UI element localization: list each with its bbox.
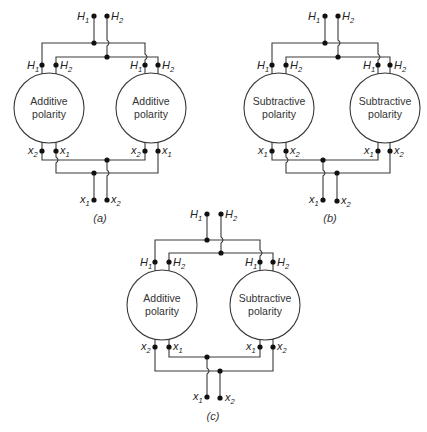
panel-c: Additive polarity Subtractive polarity H… — [127, 208, 300, 422]
svg-text:x1: x1 — [172, 340, 183, 355]
terminal-label-x1: x1 — [59, 144, 70, 159]
transformer-label: polarity — [134, 108, 169, 120]
svg-text:H2: H2 — [173, 256, 186, 271]
transformer-label: Subtractive — [239, 292, 292, 304]
transformer-label: polarity — [145, 305, 180, 317]
parallel-transformer-diagram: Additive polarity Additive polarity H1 H… — [0, 0, 427, 432]
svg-text:x2: x2 — [340, 194, 352, 209]
svg-text:H1: H1 — [190, 208, 202, 223]
terminal-label-h1: H1 — [130, 59, 142, 74]
terminal-dot — [142, 148, 147, 153]
transformer-label: polarity — [32, 108, 67, 120]
junction-dot — [91, 170, 96, 175]
terminal-dot — [155, 62, 160, 67]
panel-b: Subtractive polarity Subtractive polarit… — [244, 10, 420, 224]
svg-text:x2: x2 — [224, 391, 236, 406]
svg-text:H2: H2 — [290, 59, 303, 74]
svg-text:H2: H2 — [225, 208, 238, 223]
load-x2-wire — [107, 160, 109, 200]
terminal-label-x2: x2 — [27, 144, 39, 159]
terminal-dot — [142, 62, 147, 67]
terminal-label-h2: H2 — [111, 10, 124, 25]
svg-text:x1: x1 — [363, 144, 374, 159]
transformer-label: Additive — [30, 95, 68, 107]
svg-text:x1: x1 — [257, 144, 268, 159]
svg-text:H2: H2 — [277, 256, 290, 271]
svg-text:x1: x1 — [308, 193, 319, 208]
terminal-dot — [104, 197, 109, 202]
terminal-label-x2: x2 — [110, 193, 122, 208]
supply-h2-wire — [107, 16, 109, 57]
terminal-dot — [53, 62, 58, 67]
transformer-label: Subtractive — [253, 95, 306, 107]
panel-caption: (c) — [207, 410, 220, 422]
terminal-label-h2: H2 — [60, 59, 73, 74]
terminal-label-h1: H1 — [27, 59, 39, 74]
transformer-label: polarity — [368, 108, 403, 120]
svg-text:x1: x1 — [192, 390, 203, 405]
svg-text:x2: x2 — [276, 340, 288, 355]
terminal-dot — [39, 148, 44, 153]
panel-caption: (b) — [323, 212, 337, 224]
terminal-dot — [104, 13, 109, 18]
svg-text:H1: H1 — [140, 256, 152, 271]
transformer-label: Subtractive — [359, 95, 412, 107]
junction-dot — [104, 157, 109, 162]
junction-dot — [104, 54, 109, 59]
panel-caption: (a) — [93, 212, 107, 224]
transformer-label: polarity — [262, 108, 297, 120]
terminal-dot — [91, 13, 96, 18]
svg-text:x1: x1 — [245, 340, 256, 355]
x2-bus — [286, 151, 390, 173]
svg-text:H1: H1 — [245, 256, 257, 271]
terminal-label-x1: x1 — [161, 144, 172, 159]
transformer-label: Additive — [132, 95, 170, 107]
svg-text:H2: H2 — [394, 59, 407, 74]
terminal-dot — [39, 62, 44, 67]
transformer-label: polarity — [248, 305, 283, 317]
svg-text:x2: x2 — [289, 144, 301, 159]
svg-text:H2: H2 — [342, 10, 355, 25]
svg-text:H1: H1 — [308, 10, 320, 25]
svg-text:H1: H1 — [363, 59, 375, 74]
panel-a: Additive polarity Additive polarity H1 H… — [14, 10, 186, 224]
svg-text:x2: x2 — [393, 144, 405, 159]
terminal-label-h1: H1 — [77, 10, 89, 25]
terminal-label-h2: H2 — [162, 59, 175, 74]
terminal-label-x2: x2 — [130, 144, 142, 159]
terminal-dot — [91, 197, 96, 202]
svg-text:H1: H1 — [257, 59, 269, 74]
junction-dot — [91, 40, 96, 45]
terminal-dot — [155, 148, 160, 153]
terminal-dot — [53, 148, 58, 153]
svg-text:x2: x2 — [140, 340, 152, 355]
terminal-label-x1: x1 — [79, 193, 90, 208]
transformer-label: Additive — [143, 292, 181, 304]
